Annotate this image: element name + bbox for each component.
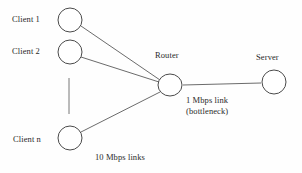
- node-client1: [58, 8, 82, 32]
- node-server: [262, 70, 286, 94]
- link-label-bottleneck-line2: (bottleneck): [186, 106, 228, 117]
- node-label-client1: Client 1: [12, 14, 40, 25]
- edge-client2-router: [81, 57, 159, 82]
- link-label-access-links: 10 Mbps links: [95, 152, 145, 163]
- network-diagram: Client 1 Client 2 Client n Router Server…: [0, 0, 302, 173]
- node-label-clientn: Client n: [13, 134, 41, 145]
- node-label-client2: Client 2: [12, 46, 40, 57]
- node-label-router: Router: [155, 50, 179, 61]
- edge-client1-router: [81, 26, 160, 80]
- node-clientn: [58, 126, 82, 150]
- link-label-bottleneck-line1: 1 Mbps link: [186, 95, 228, 106]
- node-label-server: Server: [256, 52, 279, 63]
- edge-clientn-router: [81, 92, 160, 132]
- diagram-canvas: [0, 0, 302, 173]
- edge-router-server: [183, 83, 261, 85]
- node-router: [158, 74, 182, 96]
- node-client2: [58, 40, 82, 64]
- link-label-bottleneck: 1 Mbps link (bottleneck): [186, 95, 228, 117]
